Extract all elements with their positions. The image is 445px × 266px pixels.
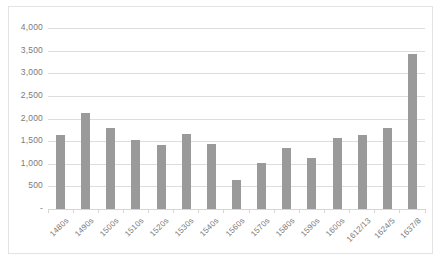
bar — [383, 128, 392, 209]
x-axis-tick-label: 1560s — [224, 216, 246, 238]
x-axis-tick-label: 1540s — [198, 216, 220, 238]
bar-series — [48, 28, 425, 209]
x-axis-label-slot: 1580s — [274, 213, 299, 253]
chart-container: 4,0003,5003,0002,5002,0001,5001,000500- … — [8, 6, 433, 254]
x-axis-tick-label: 1520s — [148, 216, 170, 238]
y-axis-tick-label: - — [0, 203, 43, 213]
bar — [182, 134, 191, 209]
y-axis-tick-label: 2,000 — [0, 113, 43, 123]
y-axis-tick-label: 500 — [0, 180, 43, 190]
x-axis-label-slot: 1570s — [249, 213, 274, 253]
x-axis-tick-label: 1510s — [123, 216, 145, 238]
bar — [282, 148, 291, 209]
bar — [307, 158, 316, 209]
y-axis-tick-label: 1,500 — [0, 135, 43, 145]
x-axis-tick-label: 1612/13 — [345, 216, 373, 244]
x-axis-label-slot: 1490s — [73, 213, 98, 253]
bar-slot — [123, 28, 148, 209]
x-axis-label-slot: 1500s — [98, 213, 123, 253]
x-axis-label-slot: 1612/13 — [350, 213, 375, 253]
bar — [131, 140, 140, 209]
x-axis-label-slot: 1560s — [224, 213, 249, 253]
x-axis-tick-label: 1637/8 — [398, 216, 423, 241]
x-axis-label-slot: 1540s — [199, 213, 224, 253]
bar — [157, 145, 166, 209]
bar-slot — [174, 28, 199, 209]
bar-slot — [224, 28, 249, 209]
bar — [207, 144, 216, 209]
bar-slot — [299, 28, 324, 209]
bar-slot — [98, 28, 123, 209]
bar — [81, 113, 90, 209]
x-axis-tick-label: 1570s — [249, 216, 271, 238]
bar — [408, 54, 417, 209]
bar-slot — [350, 28, 375, 209]
bar-slot — [375, 28, 400, 209]
y-axis-labels: 4,0003,5003,0002,5002,0001,5001,000500- — [9, 28, 45, 209]
bar-slot — [400, 28, 425, 209]
bar-slot — [48, 28, 73, 209]
bar — [257, 163, 266, 209]
bar — [333, 138, 342, 209]
bar-slot — [249, 28, 274, 209]
bar — [106, 128, 115, 209]
y-axis-tick-label: 1,000 — [0, 158, 43, 168]
x-axis-tick-label: 1480s — [48, 216, 70, 238]
x-axis-labels: 1480s1490s1500s1510s1520s1530s1540s1560s… — [48, 213, 425, 253]
bar — [56, 135, 65, 209]
bar — [232, 180, 241, 209]
x-axis-label-slot: 1520s — [149, 213, 174, 253]
bar-slot — [199, 28, 224, 209]
x-axis-label-slot: 1590s — [299, 213, 324, 253]
x-axis-label-slot: 1530s — [174, 213, 199, 253]
x-axis-tick-label: 1490s — [73, 216, 95, 238]
bar-slot — [73, 28, 98, 209]
y-axis-tick-label: 3,000 — [0, 67, 43, 77]
x-axis-tick-label: 1624/5 — [373, 216, 398, 241]
x-axis-label-slot: 1480s — [48, 213, 73, 253]
x-axis-label-slot: 1510s — [123, 213, 148, 253]
x-axis-tick-label: 1500s — [98, 216, 120, 238]
x-axis-tick-label: 1590s — [299, 216, 321, 238]
x-axis-label-slot: 1600s — [325, 213, 350, 253]
x-axis-tick-label: 1600s — [324, 216, 346, 238]
x-axis-tick-label: 1580s — [274, 216, 296, 238]
y-axis-tick-label: 2,500 — [0, 90, 43, 100]
plot-area — [48, 28, 425, 209]
bar — [358, 135, 367, 209]
bar-slot — [325, 28, 350, 209]
y-axis-tick-label: 4,000 — [0, 22, 43, 32]
bar-slot — [274, 28, 299, 209]
x-axis-label-slot: 1637/8 — [400, 213, 425, 253]
bar-slot — [149, 28, 174, 209]
x-axis-tick-label: 1530s — [173, 216, 195, 238]
y-axis-tick-label: 3,500 — [0, 45, 43, 55]
x-axis-label-slot: 1624/5 — [375, 213, 400, 253]
